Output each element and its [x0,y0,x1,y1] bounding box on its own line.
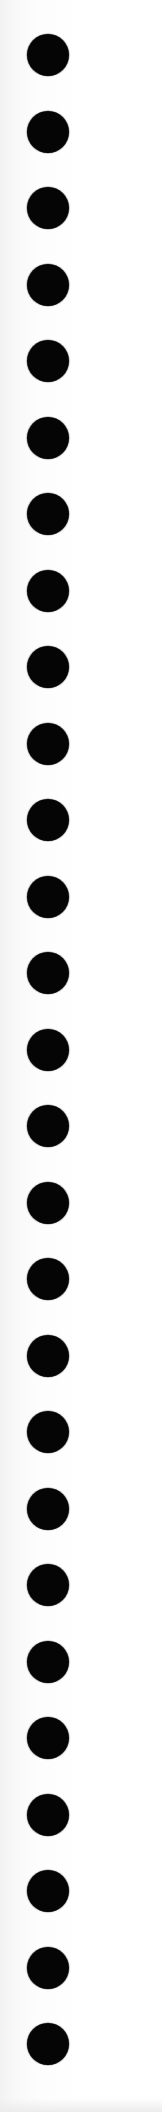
paper-sheet [0,0,162,2112]
punch-hole [27,1794,69,1836]
punch-hole-column [0,0,162,2112]
punch-hole [27,493,69,535]
punch-hole [27,646,69,688]
punch-hole [27,264,69,306]
punch-hole [27,1717,69,1759]
punch-hole [27,417,69,459]
punch-hole [27,111,69,153]
punch-hole [27,1182,69,1224]
punch-hole [27,1564,69,1606]
punch-hole [27,340,69,382]
punch-hole [27,1870,69,1912]
punch-hole [27,723,69,765]
punch-hole [27,952,69,994]
punch-hole [27,1029,69,1071]
punch-hole [27,876,69,918]
punch-hole [27,2023,69,2065]
punch-hole [27,34,69,76]
punch-hole [27,1411,69,1453]
bottom-edge-shadow [0,2098,162,2112]
punch-hole [27,1258,69,1300]
punch-hole [27,1335,69,1377]
punch-hole [27,1641,69,1683]
punch-hole [27,1105,69,1147]
punch-hole [27,1947,69,1989]
punch-hole [27,799,69,841]
punch-hole [27,1488,69,1530]
punch-hole [27,187,69,229]
punch-hole [27,570,69,612]
